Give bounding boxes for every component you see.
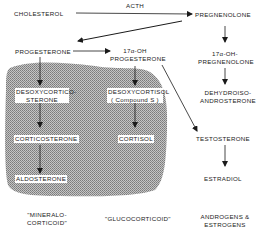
node-progesterone: PROGESTERONE (15, 48, 71, 56)
category-mineralocorticoid: "MINERALO- CORTICOID" (20, 211, 74, 226)
arrow-17oh-progesterone-to-testosterone (162, 65, 197, 131)
node-dehydroisoandrosterone: DEHYDROISO- ANDROSTERONE (198, 89, 258, 104)
node-desoxycorticosterone-line1: DESOXYCORTICO- (16, 88, 68, 96)
category-mineralocorticoid-line2: CORTICOID" (20, 219, 74, 227)
node-17oh-progesterone-line1: 17α-OH (110, 47, 160, 55)
pathway-graphics (0, 0, 261, 233)
arrow-pregnenolone-to-progesterone (78, 21, 182, 41)
node-dhea-line2: ANDROSTERONE (198, 97, 258, 105)
node-desoxycortisol-line2: ( Compound S ) (108, 96, 162, 104)
node-dhea-line1: DEHYDROISO- (198, 89, 258, 97)
node-desoxycortisol: DESOXYCORTISOL ( Compound S ) (107, 88, 163, 103)
node-cortisol: CORTISOL (118, 135, 154, 143)
node-17oh-pregnenolone-line1: 17α-OH- (198, 50, 252, 58)
category-androgens-line1: ANDROGENS & (196, 213, 254, 221)
node-cholesterol: CHOLESTEROL (14, 10, 63, 18)
node-desoxycorticosterone-line2: STERONE (16, 96, 68, 104)
acth-label: ACTH (126, 2, 144, 10)
node-17oh-pregnenolone: 17α-OH- PREGNENOLONE (198, 50, 252, 65)
node-estradiol: ESTRADIOL (204, 175, 242, 183)
node-17oh-pregnenolone-line2: PREGNENOLONE (198, 58, 252, 66)
node-desoxycorticosterone: DESOXYCORTICO- STERONE (15, 88, 69, 103)
node-corticosterone: CORTICOSTERONE (14, 135, 79, 143)
category-glucocorticoid: "GLUCOCORTICOID" (105, 215, 171, 223)
node-aldosterone: ALDOSTERONE (15, 175, 67, 183)
category-mineralocorticoid-line1: "MINERALO- (20, 211, 74, 219)
category-androgens-estrogens: ANDROGENS & ESTROGENS (196, 213, 254, 228)
node-desoxycortisol-line1: DESOXYCORTISOL (108, 88, 162, 96)
node-testosterone: TESTOSTERONE (196, 135, 250, 143)
category-androgens-line2: ESTROGENS (196, 221, 254, 229)
node-17oh-progesterone-line2: PROGESTERONE (110, 55, 160, 63)
arrow-cholesterol-to-pregnenolone (76, 13, 192, 14)
node-17oh-progesterone: 17α-OH PROGESTERONE (110, 47, 160, 62)
node-pregnenolone: PREGNENOLONE (195, 11, 251, 19)
